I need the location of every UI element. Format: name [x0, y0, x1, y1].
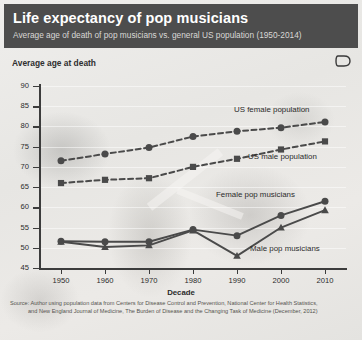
chart-title: Life expectancy of pop musicians: [13, 9, 349, 27]
y-tick-label: 80: [9, 121, 29, 130]
source-note-line-1: Source: Author using population data fro…: [10, 300, 354, 308]
x-tick: [237, 269, 238, 274]
y-tick: [33, 147, 39, 148]
source-note-line-2: and New England Journal of Medicine, The…: [10, 308, 354, 316]
x-tick-label: 2010: [308, 276, 342, 285]
y-axis-title: Average age at death: [12, 58, 96, 68]
y-tick-label: 75: [9, 142, 29, 151]
gridline: [40, 207, 346, 208]
gridline: [40, 187, 346, 188]
y-tick-label: 45: [9, 263, 29, 272]
source-note: Source: Author using population data fro…: [10, 300, 354, 315]
y-tick: [33, 126, 39, 127]
x-tick: [105, 269, 106, 274]
x-tick-label: 1980: [176, 276, 210, 285]
x-axis-title: Decade: [0, 288, 362, 297]
y-tick: [33, 228, 39, 229]
x-tick-label: 2000: [264, 276, 298, 285]
series-label-us-male-population: US male population: [248, 152, 317, 161]
gridline: [40, 228, 346, 229]
x-tick-label: 1960: [88, 276, 122, 285]
y-tick: [33, 167, 39, 168]
y-tick: [33, 86, 39, 87]
y-tick-label: 50: [9, 243, 29, 252]
x-tick: [193, 269, 194, 274]
y-tick-label: 60: [9, 202, 29, 211]
series-label-us-female-population: US female population: [234, 105, 309, 114]
y-tick: [33, 106, 39, 107]
x-tick-label: 1970: [132, 276, 166, 285]
chart-figure: Life expectancy of pop musicians Average…: [0, 0, 362, 340]
x-tick: [281, 269, 282, 274]
gridline: [40, 86, 346, 87]
x-tick-label: 1950: [44, 276, 78, 285]
x-tick: [149, 269, 150, 274]
gridline: [40, 126, 346, 127]
y-tick: [33, 207, 39, 208]
y-tick-label: 85: [9, 101, 29, 110]
d-monogram-icon: [334, 54, 352, 68]
y-tick: [33, 187, 39, 188]
y-tick-label: 90: [9, 81, 29, 90]
chart-subtitle: Average age of death of pop musicians vs…: [13, 29, 349, 41]
x-tick-label: 1990: [220, 276, 254, 285]
x-tick: [61, 269, 62, 274]
series-label-male-pop-musicians: Male pop musicians: [250, 244, 320, 253]
series-label-female-pop-musicians: Female pop musicians: [216, 190, 295, 199]
y-tick-label: 70: [9, 162, 29, 171]
y-tick: [33, 248, 39, 249]
x-tick: [325, 269, 326, 274]
y-tick-label: 65: [9, 182, 29, 191]
chart-header: Life expectancy of pop musicians Average…: [4, 4, 358, 48]
gridline: [40, 147, 346, 148]
gridline: [40, 167, 346, 168]
y-tick-label: 55: [9, 223, 29, 232]
y-axis-line: [39, 84, 41, 270]
y-tick: [33, 268, 39, 269]
